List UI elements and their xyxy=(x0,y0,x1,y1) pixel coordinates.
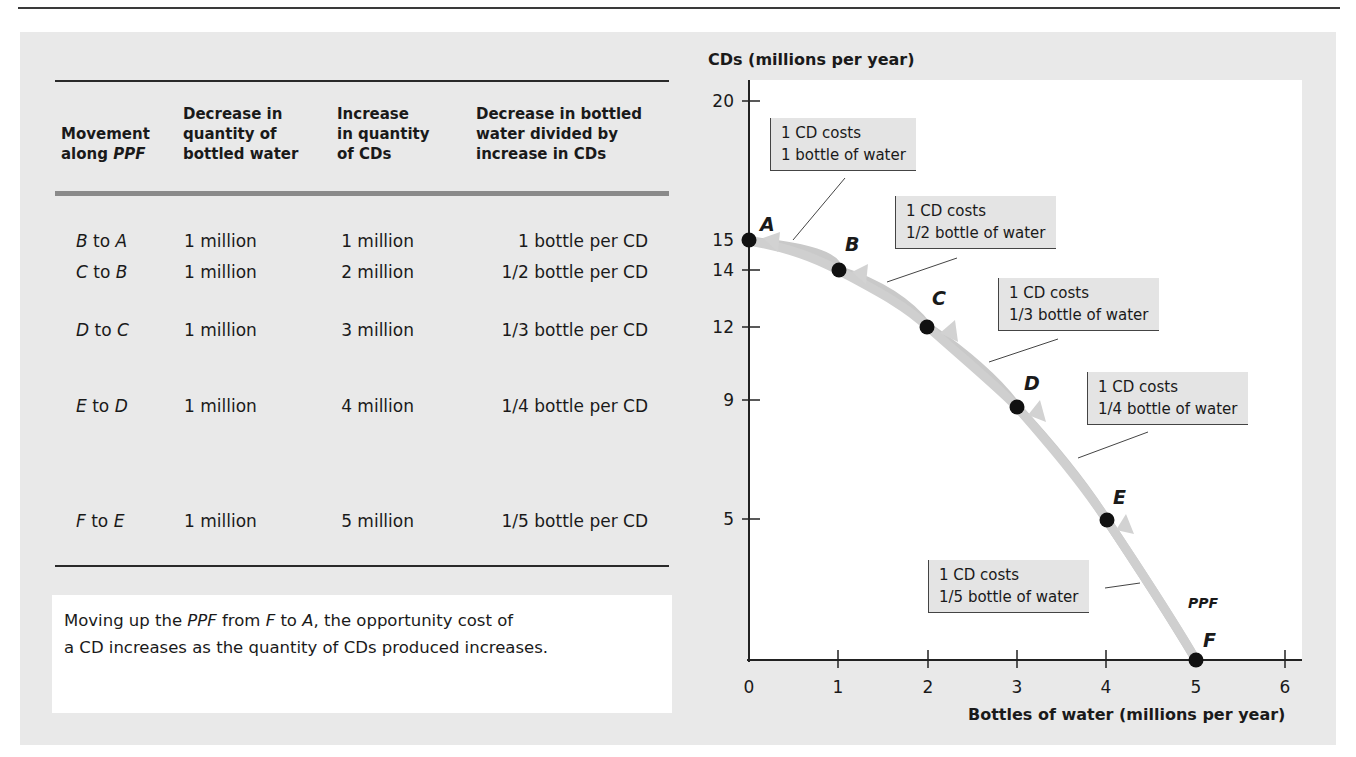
x-tick-label: 0 xyxy=(739,677,759,697)
point-c xyxy=(920,320,935,335)
callout-line: 1/2 bottle of water xyxy=(906,222,1046,244)
point-a xyxy=(742,233,757,248)
y-tick-label: 12 xyxy=(704,317,734,337)
ppf-curve-label: PPF xyxy=(1188,595,1218,611)
point-label-f: F xyxy=(1203,629,1216,651)
callout-line: 1/4 bottle of water xyxy=(1098,398,1238,420)
callout-b-c: 1 CD costs 1/2 bottle of water xyxy=(895,196,1056,249)
y-tick-label: 5 xyxy=(704,509,734,529)
callout-line: 1 CD costs xyxy=(1098,376,1238,398)
callout-d-e: 1 CD costs 1/4 bottle of water xyxy=(1087,372,1248,425)
x-tick-label: 2 xyxy=(918,677,938,697)
y-tick-label: 20 xyxy=(704,91,734,111)
point-label-c: C xyxy=(932,287,946,309)
point-d xyxy=(1010,400,1025,415)
point-f xyxy=(1189,653,1204,668)
y-axis-label: CDs (millions per year) xyxy=(708,50,915,69)
y-tick-label: 9 xyxy=(704,390,734,410)
callout-c-d: 1 CD costs 1/3 bottle of water xyxy=(998,278,1159,331)
callout-line: 1/5 bottle of water xyxy=(939,586,1079,608)
point-b xyxy=(832,263,847,278)
callout-e-f: 1 CD costs 1/5 bottle of water xyxy=(928,560,1089,613)
point-label-e: E xyxy=(1113,486,1126,508)
point-label-b: B xyxy=(845,233,859,255)
y-ticks xyxy=(742,101,760,519)
callout-line: 1 bottle of water xyxy=(781,144,906,166)
point-e xyxy=(1100,513,1115,528)
x-tick-label: 5 xyxy=(1186,677,1206,697)
x-tick-label: 6 xyxy=(1275,677,1295,697)
point-label-a: A xyxy=(760,213,775,235)
x-tick-label: 3 xyxy=(1007,677,1027,697)
callout-line: 1 CD costs xyxy=(939,564,1079,586)
callout-line: 1 CD costs xyxy=(1009,282,1149,304)
callout-a-b: 1 CD costs 1 bottle of water xyxy=(770,118,916,171)
x-axis-label: Bottles of water (millions per year) xyxy=(968,705,1285,724)
y-tick-label: 14 xyxy=(704,260,734,280)
callout-line: 1/3 bottle of water xyxy=(1009,304,1149,326)
x-tick-label: 4 xyxy=(1096,677,1116,697)
callout-line: 1 CD costs xyxy=(781,122,906,144)
point-label-d: D xyxy=(1024,372,1040,394)
callout-line: 1 CD costs xyxy=(906,200,1046,222)
y-tick-label: 15 xyxy=(704,230,734,250)
x-tick-label: 1 xyxy=(828,677,848,697)
